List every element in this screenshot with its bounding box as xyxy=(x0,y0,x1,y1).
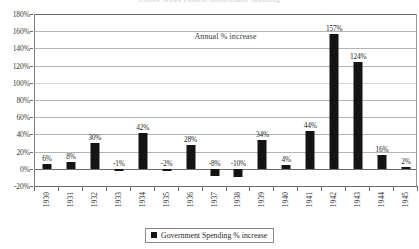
chart-annotation: Annual % increase xyxy=(34,32,417,41)
bar-value-label: -10% xyxy=(231,159,246,168)
bar-value-label: -1% xyxy=(113,159,125,168)
bar xyxy=(162,169,171,171)
bar xyxy=(210,169,219,176)
x-axis-year-label: 1939 xyxy=(257,192,266,207)
x-axis-year-label: 1934 xyxy=(137,192,146,207)
x-axis-tick-mark xyxy=(297,186,298,191)
bar xyxy=(378,155,387,169)
x-axis-tick-mark xyxy=(106,186,107,191)
x-axis-category-labels: 1930193119321933193419351936193719381939… xyxy=(34,192,417,228)
bar xyxy=(258,140,267,169)
bar-value-label: 34% xyxy=(256,130,269,139)
x-axis-year-label: 1938 xyxy=(233,192,242,207)
x-axis-tick-mark xyxy=(345,186,346,191)
x-axis-tick-mark xyxy=(154,186,155,191)
x-axis-year-label: 1930 xyxy=(41,192,50,207)
x-axis-tick-mark xyxy=(34,186,35,191)
bar-value-label: -8% xyxy=(209,159,221,168)
bar xyxy=(138,133,147,169)
y-axis-tick-label: 60% xyxy=(16,113,30,122)
bar-value-label: 124% xyxy=(350,52,366,61)
y-axis-tick-mark xyxy=(30,31,33,32)
bar xyxy=(306,131,315,169)
bar xyxy=(282,165,291,168)
y-axis-tick-mark xyxy=(30,152,33,153)
y-axis-tick-label: 0% xyxy=(20,164,30,173)
x-axis-year-label: 1932 xyxy=(89,192,98,207)
x-axis-tick-mark xyxy=(273,186,274,191)
x-axis-year-label: 1943 xyxy=(353,192,362,207)
y-axis-tick-label: 140% xyxy=(13,44,30,53)
x-axis-tick-mark xyxy=(178,186,179,191)
bar-value-label: 4% xyxy=(282,155,291,164)
legend-label: Government Spending % increase xyxy=(161,231,267,240)
y-axis-tick-label: 160% xyxy=(13,27,30,36)
y-axis-tick-mark xyxy=(30,66,33,67)
bar-value-label: 42% xyxy=(136,123,149,132)
bar xyxy=(234,169,243,178)
bar-chart: 6%8%30%-1%42%-2%28%-8%-10%34%4%44%157%12… xyxy=(34,14,417,186)
bar xyxy=(402,167,411,169)
x-axis-year-label: 1941 xyxy=(305,192,314,207)
y-axis-tick-label: 180% xyxy=(13,10,30,19)
x-axis-year-label: 1945 xyxy=(401,192,410,207)
x-axis-year-label: 1935 xyxy=(161,192,170,207)
y-axis-tick-label: 100% xyxy=(13,78,30,87)
y-axis-tick-mark xyxy=(30,169,33,170)
y-axis-tick-mark xyxy=(30,14,33,15)
x-axis-year-label: 1937 xyxy=(209,192,218,207)
y-axis-tick-mark xyxy=(30,134,33,135)
x-axis-tick-mark xyxy=(393,186,394,191)
y-axis-tick-mark xyxy=(30,83,33,84)
x-axis-year-label: 1933 xyxy=(113,192,122,207)
bar-value-label: 6% xyxy=(42,154,51,163)
y-axis-tick-label: 120% xyxy=(13,61,30,70)
x-axis-tick-mark xyxy=(249,186,250,191)
chart-legend: Government Spending % increase xyxy=(145,228,274,243)
y-axis-tick-label: -20% xyxy=(14,182,30,191)
y-axis-labels: 180%160%140%120%100%80%60%40%20%0%-20% xyxy=(0,14,32,186)
y-axis-tick-mark xyxy=(30,117,33,118)
y-axis-tick-mark xyxy=(30,48,33,49)
bar xyxy=(354,62,363,169)
y-axis-tick-label: 20% xyxy=(16,147,30,156)
legend-swatch-icon xyxy=(151,232,157,238)
scan-clipped-header-text: United States Federal Government Spendin… xyxy=(0,0,419,4)
y-axis-tick-label: 40% xyxy=(16,130,30,139)
x-axis-tick-mark xyxy=(369,186,370,191)
bar xyxy=(330,34,339,169)
scan-clipped-header: United States Federal Government Spendin… xyxy=(0,0,419,7)
bar-value-label: 28% xyxy=(184,135,197,144)
x-axis-tick-mark xyxy=(226,186,227,191)
x-axis-year-label: 1942 xyxy=(329,192,338,207)
bar-value-label: 8% xyxy=(66,152,75,161)
bar-value-label: 44% xyxy=(304,121,317,130)
bar xyxy=(186,145,195,169)
x-axis-year-label: 1940 xyxy=(281,192,290,207)
x-axis-tick-mark xyxy=(130,186,131,191)
y-axis-tick-mark xyxy=(30,186,33,187)
y-axis-tick-mark xyxy=(30,100,33,101)
x-axis-tick-mark xyxy=(321,186,322,191)
bar xyxy=(66,162,75,169)
bar-value-label: 2% xyxy=(401,157,410,166)
x-axis-tick-mark xyxy=(82,186,83,191)
bar-value-label: -2% xyxy=(161,159,173,168)
bar xyxy=(114,169,123,171)
bar-value-label: 16% xyxy=(376,145,389,154)
bar xyxy=(90,143,99,169)
y-axis-tick-label: 80% xyxy=(16,96,30,105)
x-axis-year-label: 1931 xyxy=(65,192,74,207)
bar-value-label: 30% xyxy=(88,133,101,142)
bar xyxy=(42,164,51,169)
x-axis-year-label: 1944 xyxy=(377,192,386,207)
x-axis-year-label: 1936 xyxy=(185,192,194,207)
x-axis-tick-mark xyxy=(417,186,418,191)
x-axis-tick-mark xyxy=(202,186,203,191)
x-axis-tick-mark xyxy=(58,186,59,191)
